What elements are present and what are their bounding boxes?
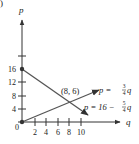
- demand-label-var: q: [127, 102, 132, 112]
- y-tick-8: 8: [12, 92, 16, 101]
- supply-label-var: q: [127, 85, 132, 95]
- origin-label: 0: [15, 123, 19, 132]
- demand-frac-den: 4: [123, 107, 126, 113]
- demand-frac-num: 5: [123, 100, 126, 106]
- supply-equation-label: p = 3 4 q: [98, 83, 132, 96]
- y-tick-4: 4: [12, 105, 16, 114]
- y-axis-label: p: [18, 5, 24, 15]
- x-tick-4: 4: [44, 128, 48, 137]
- origin-point: [20, 120, 24, 124]
- intersection-label: (8, 6): [61, 86, 80, 96]
- x-axis: q 2 4 6 8 10 0: [15, 117, 131, 137]
- supply-label-prefix: p =: [98, 85, 111, 95]
- demand-label-prefix: p = 16 −: [83, 102, 115, 112]
- intercept-point: [20, 67, 24, 71]
- corner-fragment: ): [0, 0, 3, 8]
- supply-frac-num: 3: [123, 83, 126, 89]
- svg-text:p =: p =: [98, 85, 111, 95]
- x-tick-8: 8: [67, 128, 71, 137]
- svg-text:p = 16 −: p = 16 −: [83, 102, 115, 112]
- supply-demand-diagram: ) p 16 12 8 4 q 2 4 6 8 10 0 (8, 6) p: [0, 0, 139, 144]
- x-tick-10: 10: [77, 128, 85, 137]
- y-tick-12: 12: [8, 78, 16, 87]
- y-axis: p 16 12 8 4: [8, 5, 26, 124]
- supply-frac-den: 4: [123, 90, 126, 96]
- x-tick-6: 6: [56, 128, 60, 137]
- demand-equation-label: p = 16 − 5 4 q: [83, 100, 132, 113]
- y-tick-16: 16: [8, 65, 16, 74]
- x-tick-2: 2: [33, 128, 37, 137]
- x-axis-label: q: [126, 117, 131, 127]
